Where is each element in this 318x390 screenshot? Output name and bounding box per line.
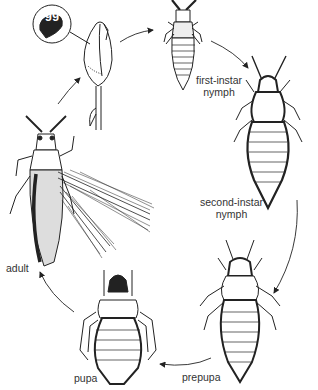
- label-second-instar-line1: second-instar: [200, 196, 263, 208]
- label-second-instar: second-instar nymph: [200, 196, 263, 220]
- plant-bud: [84, 22, 112, 130]
- diagram-artwork: [0, 0, 318, 390]
- life-cycle-diagram: egg first-instar nymph second-instar nym…: [0, 0, 318, 390]
- label-egg: egg: [38, 8, 59, 20]
- label-first-instar-line2: nymph: [196, 86, 242, 98]
- label-pupa: pupa: [74, 372, 97, 384]
- arrow-first-to-second: [211, 41, 248, 68]
- adult-illustration: [10, 116, 154, 266]
- label-second-instar-line2: nymph: [200, 208, 263, 220]
- label-first-instar: first-instar nymph: [196, 74, 242, 98]
- arrow-pupa-to-adult: [40, 272, 74, 312]
- second-instar-nymph-illustration: [234, 56, 302, 208]
- pupa-illustration: [80, 270, 156, 384]
- arrow-adult-to-egg: [58, 78, 80, 104]
- label-prepupa: prepupa: [182, 371, 221, 383]
- arrow-egg-to-first: [120, 30, 153, 42]
- arrow-second-to-prepupa: [274, 200, 297, 293]
- prepupa-illustration: [200, 240, 280, 382]
- arrow-prepupa-to-pupa: [160, 358, 211, 365]
- label-adult: adult: [6, 262, 29, 274]
- label-first-instar-line1: first-instar: [196, 74, 242, 86]
